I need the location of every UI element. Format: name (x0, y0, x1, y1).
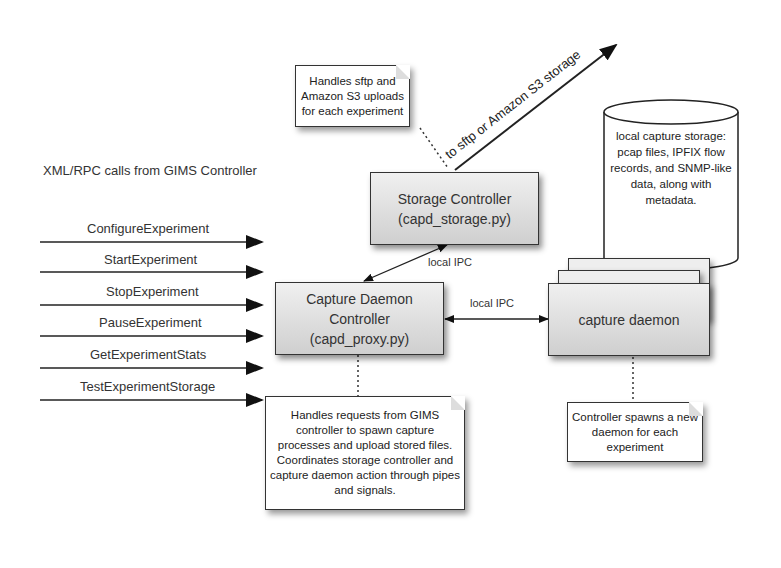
rpc-call-stop: StopExperiment (106, 284, 199, 299)
rpc-call-configure: ConfigureExperiment (87, 221, 209, 236)
note-fold-icon (396, 65, 410, 79)
capture-daemon-box: capture daemon (548, 283, 710, 356)
capture-daemon-controller-box: Capture Daemon Controller (capd_proxy.py… (275, 282, 444, 355)
storage-controller-box: Storage Controller (capd_storage.py) (370, 172, 539, 245)
storage-controller-title: Storage Controller (398, 189, 512, 209)
note-daemon: Controller spawns a new daemon for each … (567, 402, 703, 462)
capture-daemon-label: capture daemon (578, 310, 679, 330)
note-controller-text: Handles requests from GIMS controller to… (270, 408, 460, 498)
note-storage: Handles sftp and Amazon S3 uploads for e… (295, 65, 410, 127)
rpc-call-start: StartExperiment (104, 252, 197, 267)
storage-controller-file: (capd_storage.py) (398, 209, 511, 229)
note-daemon-text: Controller spawns a new daemon for each … (571, 410, 699, 455)
note-fold-icon (451, 396, 465, 410)
ipc-label-daemon: local IPC (470, 297, 514, 309)
local-storage-cylinder-text: local capture storage: pcap files, IPFIX… (610, 128, 732, 208)
ipc-label-storage: local IPC (428, 256, 472, 268)
note-controller: Handles requests from GIMS controller to… (265, 396, 465, 510)
capture-controller-line1: Capture Daemon (306, 289, 413, 309)
note-fold-icon (689, 402, 703, 416)
note-storage-text: Handles sftp and Amazon S3 uploads for e… (300, 74, 405, 119)
capture-controller-file: (capd_proxy.py) (310, 329, 409, 349)
rpc-call-getstats: GetExperimentStats (90, 347, 206, 362)
rpc-call-teststorage: TestExperimentStorage (80, 379, 215, 394)
capture-controller-line2: Controller (329, 309, 390, 329)
rpc-call-pause: PauseExperiment (99, 315, 202, 330)
rpc-title: XML/RPC calls from GIMS Controller (40, 162, 260, 179)
